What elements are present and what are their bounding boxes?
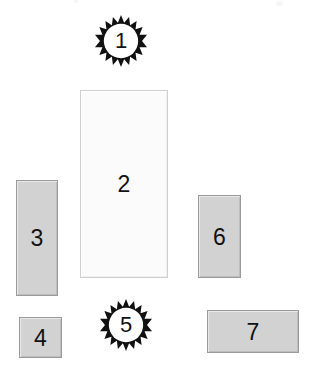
shape-4-label: 4 — [20, 326, 61, 349]
diagram-canvas: 1 2 3 4 5 6 7 — [0, 0, 320, 375]
scan-artifact-top-right — [276, 1, 283, 6]
shape-7-label: 7 — [208, 320, 298, 343]
scan-artifact-top-left — [74, 0, 78, 3]
shape-5-label: 5 — [100, 314, 152, 336]
shape-6-rectangle[interactable]: 6 — [198, 195, 241, 278]
shape-6-label: 6 — [199, 225, 240, 248]
shape-1-starburst[interactable]: 1 — [95, 15, 147, 67]
shape-2-label: 2 — [81, 173, 167, 196]
shape-4-rectangle[interactable]: 4 — [19, 317, 62, 358]
shape-3-label: 3 — [17, 227, 57, 250]
shape-5-starburst[interactable]: 5 — [100, 299, 152, 351]
shape-1-label: 1 — [95, 30, 147, 52]
shape-2-rectangle[interactable]: 2 — [80, 90, 168, 278]
shape-3-rectangle[interactable]: 3 — [16, 180, 58, 296]
shape-7-rectangle[interactable]: 7 — [207, 310, 299, 353]
